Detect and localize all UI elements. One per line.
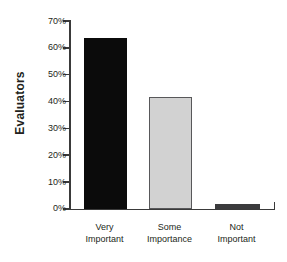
bar-very-important [84,38,127,209]
x-axis-label-line1: Not [189,222,285,234]
x-axis-label-not-important: Not Important [189,222,285,245]
bar-chart: Evaluators 70% 60% 50% 40% 30% 20% 10% 0… [0,0,287,262]
y-tick-label-60: 60% [6,43,66,52]
y-tick-label-10: 10% [6,178,66,187]
y-tick-label-0: 0% [6,204,66,213]
x-axis-end-tick [274,202,276,209]
bar-not-important [215,204,260,209]
y-tick-label-40: 40% [6,97,66,106]
x-axis-label-line2: Important [189,234,285,246]
plot-area: 70% 60% 50% 40% 30% 20% 10% 0% Very Impo… [0,0,287,262]
y-tick-label-50: 50% [6,70,66,79]
y-tick-label-20: 20% [6,151,66,160]
y-tick-label-30: 30% [6,124,66,133]
bar-some-importance [149,97,192,209]
y-tick-label-70: 70% [6,17,66,26]
